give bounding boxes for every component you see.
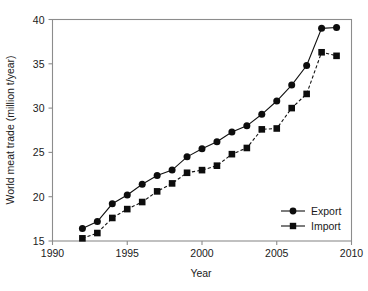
data-point-import-square <box>273 125 280 132</box>
data-point-import-square <box>288 105 295 112</box>
data-point-export-circle <box>333 24 340 31</box>
x-tick-label: 2000 <box>190 247 214 259</box>
legend-label-export: Export <box>311 205 341 217</box>
world-meat-trade-line-chart: 152025303540 19901995200020052010 Year W… <box>0 0 368 291</box>
data-point-export-circle <box>109 200 116 207</box>
data-point-export-circle <box>169 167 176 174</box>
data-point-export-circle <box>124 191 131 198</box>
data-point-export-circle <box>318 25 325 32</box>
data-point-import-square <box>139 199 146 206</box>
y-axis-title: World meat trade (million t/year) <box>4 55 16 204</box>
chart-figure: 152025303540 19901995200020052010 Year W… <box>0 0 368 291</box>
x-tick-label: 1995 <box>116 247 140 259</box>
data-point-export-circle <box>94 218 101 225</box>
data-point-import-square <box>303 91 310 98</box>
data-point-export-circle <box>288 82 295 89</box>
data-point-export-circle <box>199 145 206 152</box>
data-point-import-square <box>333 53 340 60</box>
data-point-export-circle <box>139 181 146 188</box>
data-point-import-square <box>184 169 191 176</box>
data-point-import-square <box>214 162 221 169</box>
data-point-export-circle <box>243 122 250 129</box>
data-point-import-square <box>244 145 251 152</box>
legend-marker-export-circle-icon <box>290 208 297 215</box>
data-point-import-square <box>79 235 86 242</box>
legend-marker-import-square-icon <box>290 223 296 229</box>
x-axis-title: Year <box>190 267 212 279</box>
data-point-export-circle <box>258 111 265 118</box>
data-point-export-circle <box>79 225 86 232</box>
data-point-import-square <box>199 167 206 174</box>
y-tick-label: 25 <box>33 146 45 158</box>
y-tick-label: 15 <box>33 235 45 247</box>
data-point-export-circle <box>213 138 220 145</box>
data-point-import-square <box>259 126 266 133</box>
data-point-export-circle <box>154 172 161 179</box>
data-point-import-square <box>109 215 116 222</box>
data-point-import-square <box>154 188 161 195</box>
y-tick-label: 40 <box>33 14 45 26</box>
data-point-import-square <box>124 206 131 213</box>
data-point-import-square <box>318 49 325 56</box>
data-point-export-circle <box>184 153 191 160</box>
data-point-import-square <box>94 230 101 237</box>
data-point-export-circle <box>228 129 235 136</box>
legend-label-import: Import <box>311 220 341 232</box>
y-tick-label: 30 <box>33 102 45 114</box>
y-tick-label: 35 <box>33 58 45 70</box>
data-point-export-circle <box>303 62 310 69</box>
y-tick-label: 20 <box>33 191 45 203</box>
x-tick-label: 2005 <box>265 247 289 259</box>
data-point-export-circle <box>273 98 280 105</box>
x-tick-label: 2010 <box>340 247 364 259</box>
data-point-import-square <box>229 151 236 158</box>
x-tick-label: 1990 <box>41 247 65 259</box>
data-point-import-square <box>169 180 176 187</box>
